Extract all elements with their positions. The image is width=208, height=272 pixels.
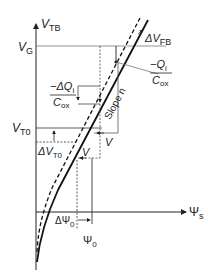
- y-axis-label: VTB: [41, 17, 61, 33]
- v-lower-label: V: [82, 146, 91, 158]
- dq-numerator: −ΔQi: [50, 80, 74, 95]
- psi0-label: Ψ0: [83, 234, 97, 249]
- v-upper-label: V: [105, 136, 114, 148]
- delta-vfb-label: ΔVFB: [144, 32, 171, 47]
- vg-label: VG: [18, 40, 33, 56]
- dashed-curve: [37, 18, 140, 252]
- vt0-label: VT0: [12, 121, 31, 137]
- slope-label: Slope n: [102, 86, 128, 121]
- delta-psi0-label: ΔΨ0: [55, 215, 75, 229]
- delta-vt0-label: ΔVT0: [37, 145, 63, 160]
- x-axis-label: Ψs: [189, 205, 204, 221]
- qi-numerator: −Qi: [150, 58, 167, 73]
- diagram-canvas: VTB VG VT0 ΔVFB −Qi Cox −ΔQi Cox Slope n…: [0, 0, 208, 272]
- dq-denominator: Cox: [53, 96, 69, 110]
- qi-denominator: Cox: [152, 74, 168, 88]
